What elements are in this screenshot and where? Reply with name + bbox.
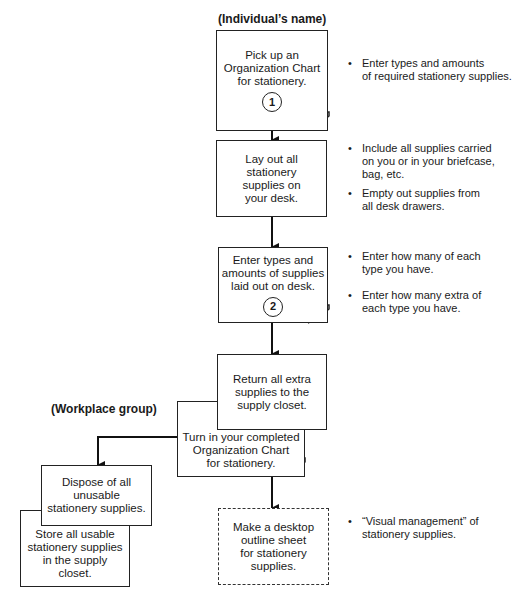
step-pick-up-chart: Pick up an Organization Chart for statio… bbox=[216, 30, 328, 131]
step-dispose-unusable: Dispose of all unusable stationery suppl… bbox=[41, 465, 152, 526]
step-text: Make a desktop outline sheet for station… bbox=[233, 521, 314, 573]
step-text: Dispose of all unusable stationery suppl… bbox=[47, 476, 145, 515]
step-text: Pick up an Organization Chart for statio… bbox=[224, 49, 321, 88]
step-text: Store all usable stationery supplies in … bbox=[27, 528, 122, 580]
step-number-badge: 1 bbox=[262, 92, 282, 112]
note-how-many: Enter how many of each type you have. bbox=[348, 250, 481, 276]
step-return-extra: Return all extra supplies to the supply … bbox=[217, 354, 327, 430]
note-empty-drawers: Empty out supplies from all desk drawers… bbox=[348, 187, 480, 213]
step-text: Enter types and amounts of supplies laid… bbox=[222, 254, 324, 293]
note-include-carried: Include all supplies carried on you or i… bbox=[348, 142, 495, 181]
step-desktop-outline: Make a desktop outline sheet for station… bbox=[218, 508, 329, 585]
step-text: Lay out all stationery supplies on your … bbox=[242, 153, 300, 205]
individual-label: (Individual’s name) bbox=[218, 12, 326, 26]
note-visual-management: “Visual management” of stationery suppli… bbox=[348, 515, 479, 541]
step-lay-out-supplies: Lay out all stationery supplies on your … bbox=[216, 140, 327, 217]
step-text: Return all extra supplies to the supply … bbox=[233, 373, 311, 412]
note-required-supplies: Enter types and amounts of required stat… bbox=[348, 57, 512, 83]
workplace-label: (Workplace group) bbox=[51, 402, 157, 416]
note-how-many-extra: Enter how many extra of each type you ha… bbox=[348, 289, 481, 315]
step-text: Turn in your completed Organization Char… bbox=[182, 431, 299, 470]
step-enter-types: Enter types and amounts of supplies laid… bbox=[218, 247, 328, 323]
step-number-badge: 2 bbox=[263, 297, 283, 317]
